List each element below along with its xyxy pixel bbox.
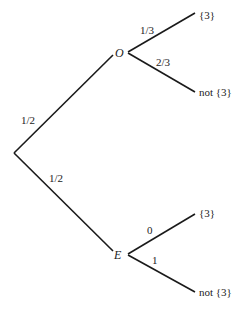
prob-root-e: 1/2 [49,172,63,184]
prob-o-bot: 2/3 [156,56,171,68]
node-o-label: O [115,46,124,60]
edge-root-to-o [14,55,113,153]
prob-root-o: 1/2 [21,114,35,126]
edge-root-to-e [14,153,113,251]
leaf-e-not3: not {3} [199,286,232,298]
edge-e-to-not3 [128,255,195,292]
leaf-o-not3: not {3} [199,86,232,98]
edge-o-to-3 [128,13,195,52]
leaf-e-3: {3} [199,207,215,219]
prob-e-bot: 1 [152,254,158,266]
prob-e-top: 0 [147,224,153,236]
edge-e-to-3 [128,214,195,254]
prob-o-top: 1/3 [140,24,155,36]
leaf-o-3: {3} [199,9,215,21]
node-e-label: E [113,248,122,262]
probability-tree-diagram: O E 1/2 1/2 1/3 2/3 0 1 {3} not {3} {3} … [0,0,248,312]
